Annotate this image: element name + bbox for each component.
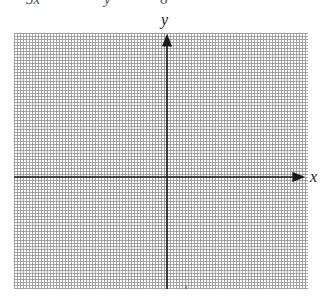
- coordinate-grid-figure: 3x y 6 y x: [0, 0, 325, 303]
- axes-group: [0, 0, 325, 303]
- x-axis-label: x: [310, 169, 317, 185]
- y-axis-label: y: [161, 12, 168, 28]
- scan-artifact-speck: [185, 286, 187, 289]
